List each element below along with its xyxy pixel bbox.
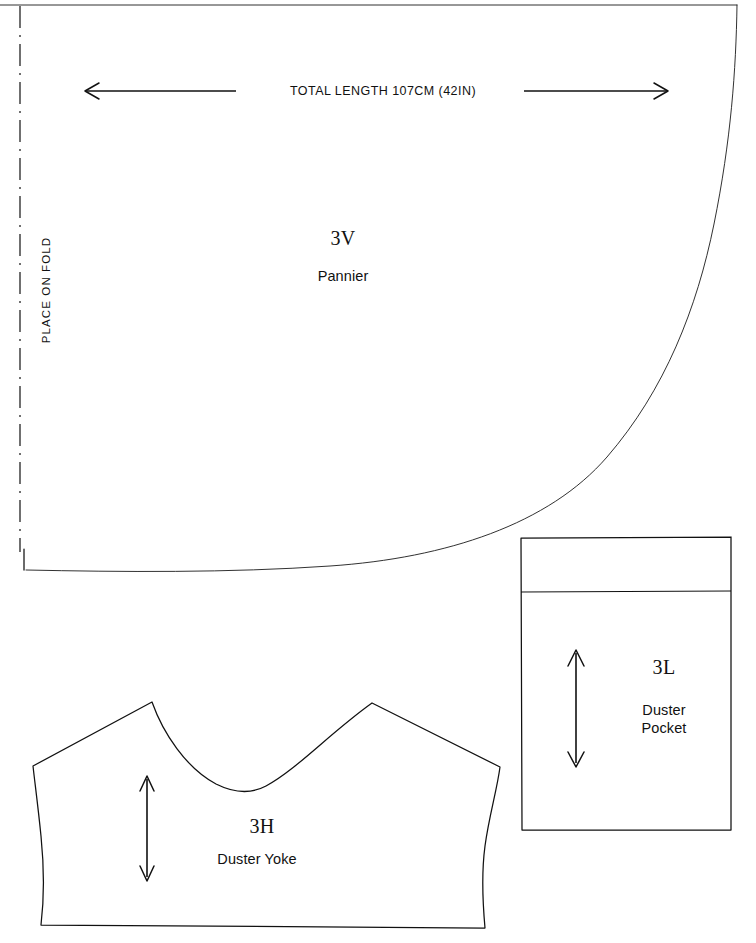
pocket-outline [521,537,731,830]
piece-duster-pocket [521,537,731,830]
pattern-sheet: PLACE ON FOLD TOTAL LENGTH 107CM (42IN) … [0,0,756,943]
piece-name-pannier: Pannier [318,267,369,285]
yoke-grain-arrow [140,776,154,881]
total-length-label: TOTAL LENGTH 107CM (42IN) [290,84,476,98]
piece-code-duster-pocket: 3L [653,656,676,679]
total-length-arrow-left [85,83,236,99]
pattern-drawing [0,0,756,943]
pocket-band-line [521,591,731,592]
piece-name-duster-pocket-line2: Pocket [642,719,687,737]
pocket-grain-arrow [568,650,584,767]
piece-name-duster-pocket-line1: Duster [642,701,685,719]
place-on-fold-label: PLACE ON FOLD [40,237,52,343]
piece-code-pannier: 3V [330,227,355,250]
piece-name-duster-yoke: Duster Yoke [217,850,296,868]
total-length-arrow-right [524,83,668,99]
piece-code-duster-yoke: 3H [249,815,274,838]
